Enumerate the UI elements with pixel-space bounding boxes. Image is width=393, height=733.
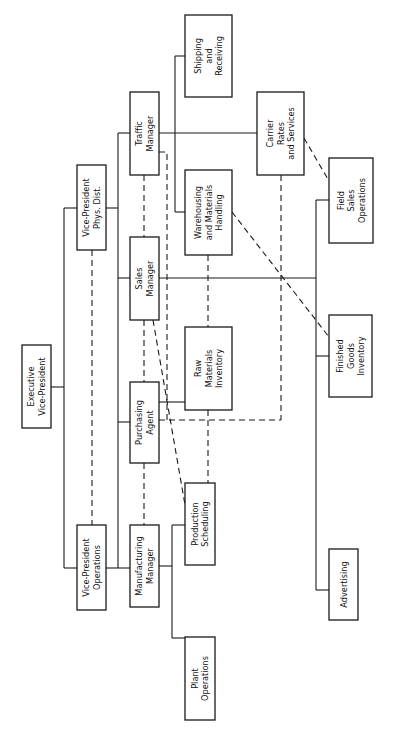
org-box-carrier-rates: CarrierRatesand Services xyxy=(257,92,304,175)
org-box-vp-phys-dist: Vice-PresidentPhys. Dist. xyxy=(77,165,106,250)
org-boxes: ExecutiveVice-PresidentVice-PresidentPhy… xyxy=(22,15,373,720)
org-box-label: Advertising xyxy=(339,561,349,607)
org-box-label: Vice-PresidentOperations xyxy=(81,538,102,597)
org-box-sales-manager: SalesManager xyxy=(130,237,159,320)
org-box-manufacturing-manager: ManufacturingManager xyxy=(130,525,159,607)
org-box-label: Vice-PresidentPhys. Dist. xyxy=(81,178,102,237)
org-box-label: ProductionScheduling xyxy=(190,501,211,546)
org-box-warehousing: Warehousingand MaterialsHandling xyxy=(185,170,232,255)
dashed-connector xyxy=(304,138,329,181)
org-box-purchasing-agent: PurchasingAgent xyxy=(130,382,159,463)
org-box-plant-operations: PlantOperations xyxy=(185,637,215,720)
org-box-raw-materials: RawMaterialsInventory xyxy=(185,327,232,410)
org-box-production-scheduling: ProductionScheduling xyxy=(185,483,215,565)
org-box-advertising: Advertising xyxy=(329,549,358,620)
org-box-field-sales: FieldSalesOperations xyxy=(329,158,373,243)
org-box-vp-operations: Vice-PresidentOperations xyxy=(77,525,106,610)
org-box-traffic-manager: TrafficManager xyxy=(130,92,159,175)
org-box-finished-goods: FinishedGoodsInventory xyxy=(329,315,372,397)
org-box-exec-vp: ExecutiveVice-President xyxy=(22,345,51,428)
org-chart-diagram: ExecutiveVice-PresidentVice-PresidentPhy… xyxy=(0,0,393,733)
org-box-shipping-receiving: ShippingandReceiving xyxy=(185,15,232,97)
